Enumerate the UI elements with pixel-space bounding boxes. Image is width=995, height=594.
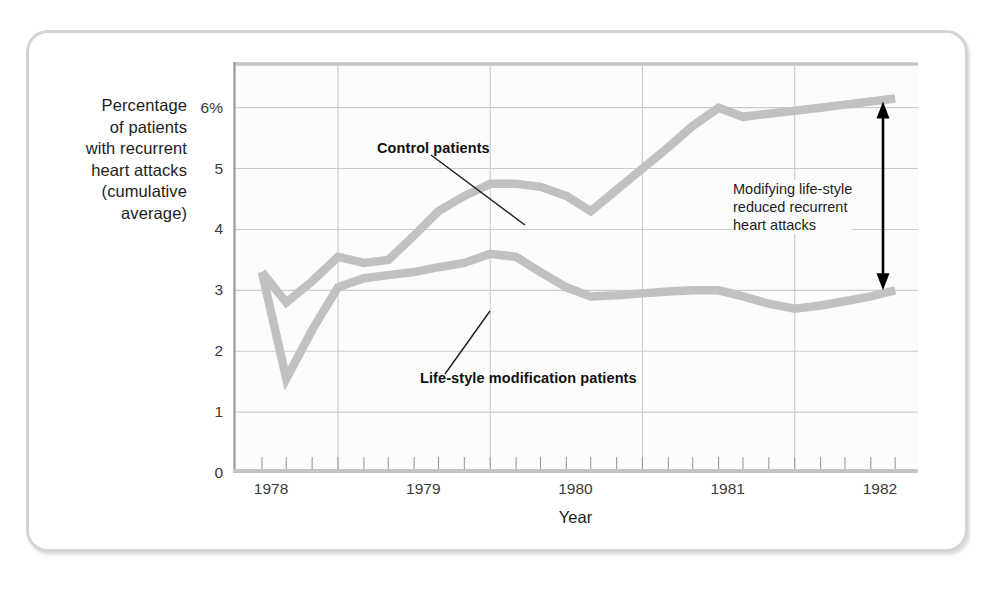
y-tick-label: 3: [177, 282, 223, 298]
bracket-note-line-2: reduced recurrent: [733, 198, 852, 216]
figure-root: Percentage of patients with recurrent he…: [0, 0, 995, 594]
series-label-lifestyle: Life-style modification patients: [420, 370, 637, 386]
y-tick-label: 2: [177, 343, 223, 359]
x-tick-label: 1980: [536, 480, 616, 498]
y-tick-label: 6%: [177, 100, 223, 116]
y-axis-caption-line-2: of patients: [52, 117, 187, 139]
y-axis-caption: Percentage of patients with recurrent he…: [52, 95, 187, 224]
x-tick-label: 1982: [840, 480, 920, 498]
x-axis-title: Year: [516, 508, 636, 527]
chart-canvas: [233, 62, 918, 473]
series-line-lifestyle: [262, 254, 895, 379]
y-axis-caption-line-6: average): [52, 203, 187, 225]
series-label-control: Control patients: [377, 140, 490, 156]
y-axis-caption-line-1: Percentage: [52, 95, 187, 117]
plot-area: [233, 62, 918, 473]
y-axis-caption-line-5: (cumulative: [52, 181, 187, 203]
bracket-note-line-1: Modifying life-style: [733, 180, 852, 198]
bracket-note-line-3: heart attacks: [733, 216, 852, 234]
y-axis-caption-line-3: with recurrent: [52, 138, 187, 160]
y-tick-label: 4: [177, 221, 223, 237]
y-axis-caption-line-4: heart attacks: [52, 160, 187, 182]
leader-line-control: [431, 155, 525, 225]
leader-line-lifestyle: [445, 311, 490, 374]
bracket-annotation-note: Modifying life-style reduced recurrent h…: [733, 180, 852, 234]
bracket-arrowhead-down: [876, 273, 889, 290]
y-tick-label: 0: [177, 465, 223, 481]
x-tick-label: 1981: [688, 480, 768, 498]
y-tick-label: 1: [177, 404, 223, 420]
y-tick-label: 5: [177, 161, 223, 177]
x-tick-label: 1978: [231, 480, 311, 498]
x-tick-label: 1979: [383, 480, 463, 498]
